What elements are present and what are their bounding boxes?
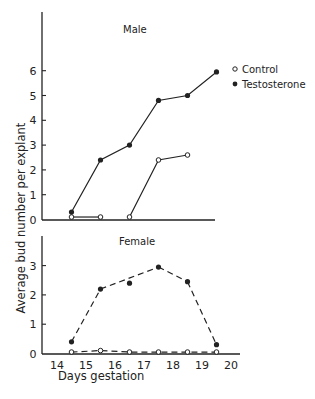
legend: Control Testosterone <box>233 64 306 90</box>
female-testosterone-point <box>214 342 219 347</box>
male-testosterone-point <box>69 209 74 214</box>
female-control-point <box>69 350 74 355</box>
female-panel-title: Female <box>119 236 155 247</box>
male-testosterone-point <box>156 98 161 103</box>
female-testosterone-point <box>127 281 132 286</box>
female-testosterone-line <box>188 282 217 345</box>
male-ytick-label: 5 <box>30 90 37 103</box>
male-panel-title: Male <box>123 24 147 35</box>
male-control-point <box>185 153 190 158</box>
male-testosterone-line <box>72 72 217 212</box>
male-control-point <box>69 215 74 220</box>
female-ytick-label: 3 <box>30 260 37 273</box>
male-ytick-label: 6 <box>30 65 37 78</box>
male-testosterone-point <box>127 143 132 148</box>
male-ytick-label: 0 <box>30 214 37 227</box>
x-axis-label: Days gestation <box>58 369 144 383</box>
male-control-point <box>98 215 103 220</box>
male-ytick-label: 1 <box>30 189 37 202</box>
xtick-label: 19 <box>195 359 209 372</box>
male-control-point <box>156 158 161 163</box>
male-testosterone-point <box>214 69 219 74</box>
female-ytick-label: 2 <box>30 289 37 302</box>
male-control-point <box>127 215 132 220</box>
male-ytick-label: 4 <box>30 114 37 127</box>
male-testosterone-point <box>98 157 103 162</box>
female-control-point <box>98 348 103 353</box>
female-testosterone-line <box>159 267 188 282</box>
male-ytick-label: 3 <box>30 139 37 152</box>
male-panel: Male 0123456 Control Testosterone <box>30 12 306 227</box>
legend-control-marker <box>233 67 237 71</box>
male-testosterone-point <box>185 93 190 98</box>
female-control-line <box>72 351 217 352</box>
male-control-line <box>130 155 188 217</box>
female-ytick-label: 1 <box>30 318 37 331</box>
female-control-point <box>156 350 161 355</box>
female-ytick-label: 0 <box>30 348 37 361</box>
female-testosterone-point <box>98 286 103 291</box>
legend-testosterone-label: Testosterone <box>241 79 306 90</box>
xtick-label: 18 <box>166 359 180 372</box>
chart-figure: Male 0123456 Control Testosterone Female… <box>0 0 315 399</box>
male-ytick-label: 2 <box>30 164 37 177</box>
legend-testosterone-marker <box>233 82 238 87</box>
female-testosterone-line <box>72 289 101 342</box>
xtick-label: 20 <box>224 359 238 372</box>
female-control-point <box>214 350 219 355</box>
female-control-point <box>127 350 132 355</box>
y-axis-label: Average bud number per explant <box>14 122 28 313</box>
female-testosterone-point <box>69 339 74 344</box>
female-testosterone-point <box>185 279 190 284</box>
female-control-point <box>185 350 190 355</box>
female-panel: Female 0123 14151617181920 <box>30 236 241 372</box>
female-testosterone-point <box>156 264 161 269</box>
legend-control-label: Control <box>242 64 278 75</box>
